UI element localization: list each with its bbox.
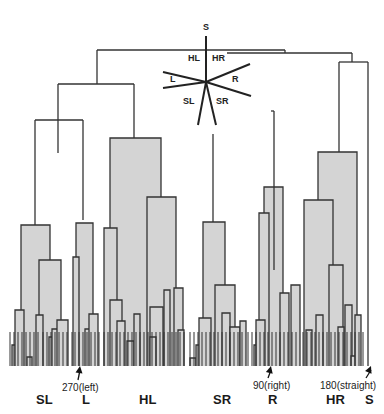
leaf-cluster xyxy=(355,315,361,366)
compass-label-hl: HL xyxy=(188,53,200,63)
compass-label-sr: SR xyxy=(216,96,229,106)
compass-ray-sr xyxy=(206,82,216,125)
group-label-s: S xyxy=(365,392,374,407)
annotation-arrows xyxy=(76,366,372,380)
compass-label-l: L xyxy=(170,74,176,84)
leaf-cluster xyxy=(190,358,196,366)
arrowhead-icon xyxy=(76,366,83,373)
leaf-cluster xyxy=(36,315,43,366)
annotation-180-straight: 180(straight) xyxy=(320,380,376,391)
group-label-sr: SR xyxy=(213,392,231,407)
annotation-90-right: 90(right) xyxy=(253,380,290,391)
group-label-hr: HR xyxy=(326,392,345,407)
arrowhead-icon xyxy=(365,366,371,374)
compass-label-r: R xyxy=(232,74,239,84)
leaf-cluster xyxy=(164,290,170,366)
group-label-l: L xyxy=(82,392,90,407)
arrowhead-icon xyxy=(266,366,273,374)
leaf-cluster xyxy=(89,314,98,366)
group-label-hl: HL xyxy=(139,392,156,407)
leaf-cluster xyxy=(134,314,140,366)
leaf-cluster xyxy=(240,321,246,366)
compass-ray-hr xyxy=(206,64,250,82)
compass-label-s: S xyxy=(203,22,209,32)
leaf-cluster xyxy=(150,337,156,366)
group-label-sl: SL xyxy=(36,392,53,407)
compass-label-hr: HR xyxy=(212,53,225,63)
compass-label-sl: SL xyxy=(183,96,195,106)
leaf-cluster xyxy=(178,330,184,366)
annotation-270-left: 270(left) xyxy=(62,382,99,393)
leaf-cluster xyxy=(199,318,211,366)
group-label-r: R xyxy=(268,392,277,407)
compass-ray-sl xyxy=(198,82,206,125)
compass-ray-r xyxy=(206,82,251,96)
leaf-cluster xyxy=(15,310,24,366)
cluster-box-L-sub xyxy=(73,257,79,366)
